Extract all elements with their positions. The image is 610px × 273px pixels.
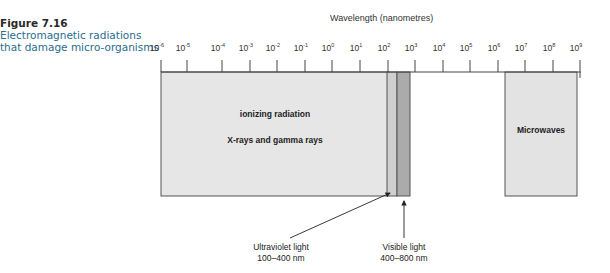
axis-tick-label: 101 (350, 42, 363, 53)
axis-tick-label: 105 (460, 42, 473, 53)
axis-tick-label: 10-4 (211, 42, 225, 53)
axis-tick-label: 102 (378, 42, 391, 53)
axis-tick-label: 108 (543, 42, 556, 53)
ionizing-radiation-region (161, 72, 388, 196)
axis-tick-label: 107 (515, 42, 528, 53)
axis-tick-labels: 10-610-510-410-310-210-11001011021031041… (150, 42, 582, 53)
axis-tick-label: 10-1 (294, 42, 308, 53)
ultraviolet-arrow (290, 193, 390, 238)
axis-tick-label: 109 (570, 42, 583, 53)
spectrum-diagram: 10-610-510-410-310-210-11001011021031041… (0, 0, 610, 273)
axis-tick-label: 10-3 (239, 42, 253, 53)
ultraviolet-range: 100–400 nm (257, 253, 304, 263)
visible-light-label: Visible light (383, 242, 426, 252)
axis-tick-label: 103 (405, 42, 418, 53)
microwaves-label: Microwaves (517, 125, 565, 135)
xray-gamma-label: X-rays and gamma rays (227, 135, 323, 145)
ultraviolet-band (387, 72, 397, 196)
axis-tick-label: 104 (433, 42, 446, 53)
visible-light-range: 400–800 nm (380, 253, 427, 263)
axis-tick-label: 106 (488, 42, 501, 53)
axis-tick-label: 100 (322, 42, 335, 53)
axis-tick-label: 10-2 (266, 42, 280, 53)
axis-tick-label: 10-5 (176, 42, 190, 53)
ionizing-label: ionizing radiation (240, 109, 310, 119)
axis-tick-label: 10-6 (150, 42, 164, 53)
ultraviolet-label: Ultraviolet light (253, 242, 309, 252)
visible-light-band (397, 72, 410, 196)
